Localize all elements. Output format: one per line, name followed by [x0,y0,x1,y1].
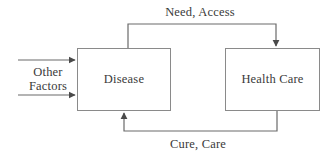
edge-label-other-factors-line2: Factors [20,79,76,93]
node-disease[interactable]: Disease [77,48,171,111]
edge-label-cure-care: Cure, Care [148,137,248,151]
node-disease-label: Disease [104,73,144,87]
edge-label-other-factors: Other Factors [20,65,76,94]
edge-label-other-factors-line1: Other [20,65,76,79]
edge-cure-care-connector [124,111,277,131]
node-health-care[interactable]: Health Care [225,48,320,111]
edge-label-need-access: Need, Access [150,5,250,19]
node-health-care-label: Health Care [241,73,303,87]
diagram-canvas: Disease Health Care Need, Access Cure, C… [0,0,332,161]
edge-need-access-connector [128,24,276,48]
